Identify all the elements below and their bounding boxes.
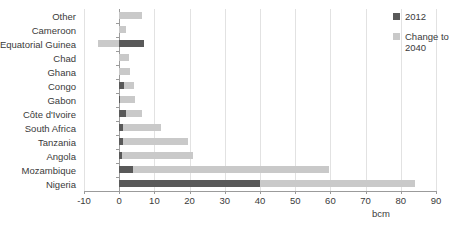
legend-label: 2012	[405, 11, 426, 22]
x-tickmark	[330, 191, 331, 194]
y-axis-label-south-africa: South Africa	[25, 122, 76, 135]
bar-row	[84, 65, 436, 78]
bar-row	[84, 9, 436, 22]
legend-item[interactable]: 2012	[393, 11, 467, 22]
y-axis-label-other: Other	[52, 10, 76, 23]
y-axis-label-mozambique: Mozambique	[22, 164, 76, 177]
y-axis-label-ghana: Ghana	[47, 66, 76, 79]
bar-segment-change-to-2040	[119, 26, 125, 33]
x-tickmark	[154, 191, 155, 194]
cropped-title-remnant	[0, 0, 469, 6]
y-axis-label-cameroon: Cameroon	[32, 24, 76, 37]
bar-row	[84, 149, 436, 162]
bar-row	[84, 51, 436, 64]
bar-chart: OtherCameroonEquatorial GuineaChadGhanaC…	[0, 0, 469, 227]
y-axis-label-gabon: Gabon	[47, 94, 76, 107]
bar-segment-change-to-2040	[123, 124, 161, 131]
bar-row	[84, 177, 436, 190]
x-axis-label-80: 80	[396, 195, 407, 206]
bar-segment-change-to-2040	[98, 40, 119, 47]
x-axis-label-30: 30	[220, 195, 231, 206]
x-tickmark	[401, 191, 402, 194]
bar-segment-change-to-2040	[122, 152, 193, 159]
bar-row	[84, 163, 436, 176]
x-tickmark	[295, 191, 296, 194]
x-tickmark	[225, 191, 226, 194]
bar-row	[84, 121, 436, 134]
legend-swatch-icon	[393, 13, 400, 20]
x-tickmark	[84, 191, 85, 194]
chart-legend: 2012Change to 2040	[393, 11, 467, 62]
bar-segment-change-to-2040	[133, 166, 328, 173]
y-axis-label-c-te-d-ivoire: Côte d'Ivoire	[23, 108, 76, 121]
x-tickmark	[436, 191, 437, 194]
bar-row	[84, 135, 436, 148]
bar-segment-2012	[119, 40, 144, 47]
bar-segment-change-to-2040	[126, 110, 142, 117]
y-axis-label-chad: Chad	[53, 52, 76, 65]
y-axis-category-labels: OtherCameroonEquatorial GuineaChadGhanaC…	[0, 9, 80, 191]
bar-segment-2012	[119, 180, 260, 187]
x-axis-label-40: 40	[255, 195, 266, 206]
x-axis-label-20: 20	[184, 195, 195, 206]
bar-segment-change-to-2040	[124, 82, 134, 89]
bar-segment-2012	[119, 166, 133, 173]
x-tickmark	[366, 191, 367, 194]
x-axis-label-70: 70	[360, 195, 371, 206]
legend-item[interactable]: Change to 2040	[393, 31, 467, 53]
x-axis-label-50: 50	[290, 195, 301, 206]
bar-segment-change-to-2040	[119, 12, 142, 19]
bar-rows	[84, 9, 436, 191]
y-axis-label-nigeria: Nigeria	[46, 178, 76, 191]
plot-area	[84, 9, 436, 191]
bar-row	[84, 93, 436, 106]
bar-segment-change-to-2040	[260, 180, 415, 187]
y-axis-label-equatorial-guinea: Equatorial Guinea	[0, 38, 76, 51]
x-tickmark	[190, 191, 191, 194]
bar-row	[84, 79, 436, 92]
x-axis-label-10: 10	[149, 195, 160, 206]
x-axis-label-90: 90	[431, 195, 442, 206]
bar-segment-change-to-2040	[119, 54, 129, 61]
x-axis-label--10: -10	[77, 195, 91, 206]
bar-row	[84, 23, 436, 36]
bar-segment-change-to-2040	[120, 96, 135, 103]
bar-row	[84, 107, 436, 120]
y-axis-label-congo: Congo	[48, 80, 76, 93]
y-axis-label-tanzania: Tanzania	[38, 136, 76, 149]
legend-label: Change to 2040	[405, 31, 467, 53]
bar-row	[84, 37, 436, 50]
bar-segment-change-to-2040	[119, 68, 130, 75]
bar-segment-2012	[119, 110, 126, 117]
x-axis-label-60: 60	[325, 195, 336, 206]
x-tickmark	[119, 191, 120, 194]
legend-swatch-icon	[393, 33, 400, 40]
x-axis-label-0: 0	[117, 195, 122, 206]
x-tickmark	[260, 191, 261, 194]
x-axis-unit-label: bcm	[372, 208, 390, 219]
bar-segment-change-to-2040	[123, 138, 188, 145]
y-axis-label-angola: Angola	[46, 150, 76, 163]
